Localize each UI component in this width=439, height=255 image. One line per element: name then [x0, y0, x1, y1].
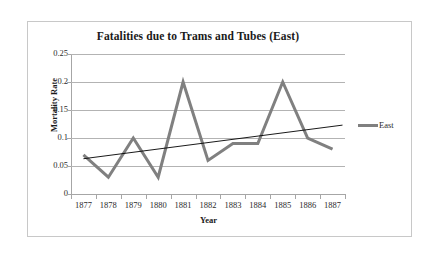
- plot-area: [71, 54, 345, 194]
- y-axis-tick-label: 0.15: [28, 104, 68, 114]
- x-axis-title: Year: [71, 215, 346, 225]
- y-axis-tick-label: 0: [28, 188, 68, 198]
- legend-label-east: East: [379, 120, 394, 130]
- x-axis-tick: [295, 195, 296, 199]
- x-axis-tick: [345, 195, 346, 199]
- legend-swatch-east: [358, 124, 378, 127]
- x-axis-tick-label: 1882: [196, 200, 221, 210]
- y-axis-tick: [67, 54, 71, 55]
- y-axis-tick: [67, 166, 71, 167]
- y-axis-tick: [67, 82, 71, 83]
- x-axis-tick-label: 1879: [121, 200, 146, 210]
- y-axis-tick-label: 0.25: [28, 48, 68, 58]
- x-axis-tick: [171, 195, 172, 199]
- x-axis-tick: [96, 195, 97, 199]
- x-axis-tick-label: 1877: [71, 200, 96, 210]
- y-axis-tick-labels: 00.050.10.150.20.25: [24, 22, 68, 238]
- chart-title: Fatalities due to Trams and Tubes (East): [28, 30, 368, 42]
- x-axis-tick: [245, 195, 246, 199]
- y-axis-tick-label: 0.1: [28, 132, 68, 142]
- x-axis-tick-label: 1881: [171, 200, 196, 210]
- x-axis-tick: [320, 195, 321, 199]
- x-axis-tick-label: 1886: [295, 200, 320, 210]
- x-axis-tick-label: 1887: [320, 200, 345, 210]
- x-axis-tick: [121, 195, 122, 199]
- chart-legend: East: [358, 120, 394, 130]
- x-axis-tick: [220, 195, 221, 199]
- y-axis-tick: [67, 110, 71, 111]
- y-axis-title: Mortality Rate: [49, 65, 59, 145]
- x-axis-tick-label: 1878: [96, 200, 121, 210]
- y-axis-tick: [67, 138, 71, 139]
- x-axis-line: [71, 194, 346, 195]
- x-axis-tick: [270, 195, 271, 199]
- x-axis-tick-label: 1885: [270, 200, 295, 210]
- chart-container: Fatalities due to Trams and Tubes (East)…: [27, 21, 412, 237]
- x-axis-tick-label: 1884: [245, 200, 270, 210]
- y-axis-tick-label: 0.05: [28, 160, 68, 170]
- x-axis-tick: [71, 195, 72, 199]
- trendline-path: [83, 125, 342, 159]
- x-axis-tick-label: 1880: [146, 200, 171, 210]
- x-axis-tick: [196, 195, 197, 199]
- y-axis-tick: [67, 194, 71, 195]
- trendline-east: [71, 54, 345, 194]
- x-axis-tick: [146, 195, 147, 199]
- x-axis-tick-label: 1883: [220, 200, 245, 210]
- y-axis-tick-label: 0.2: [28, 76, 68, 86]
